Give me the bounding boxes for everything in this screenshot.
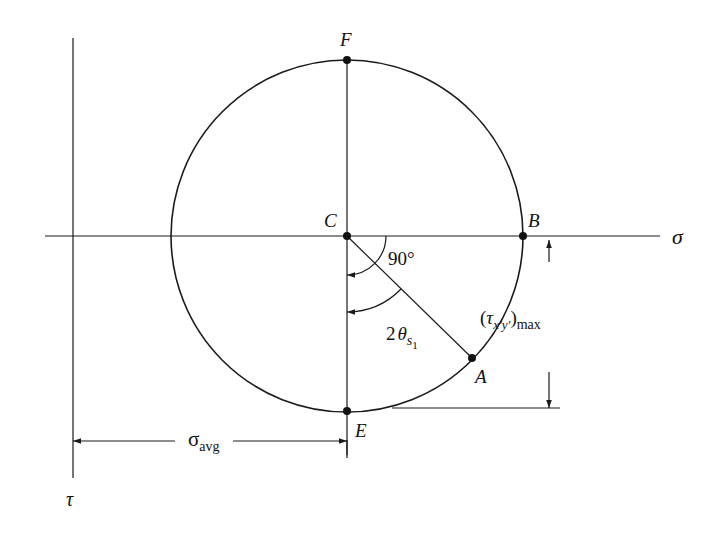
point-C (343, 232, 351, 240)
tau-max-sub: x′y′ (492, 317, 510, 332)
theta-symbol: θ (398, 323, 407, 344)
label-F: F (339, 29, 352, 50)
tau-axis-label: τ (66, 488, 74, 510)
sigma-avg-symbol: σ (188, 427, 199, 451)
label-E: E (354, 420, 367, 441)
label-C: C (324, 210, 337, 231)
tau-max-suffix: max (517, 317, 541, 332)
label-A: A (473, 366, 487, 387)
tau-max-label: (τx′y′)max (480, 307, 541, 332)
point-A (468, 354, 476, 362)
sigma-avg-sub: avg (199, 439, 219, 454)
theta-sub-1: 1 (412, 339, 418, 351)
label-B: B (528, 210, 540, 231)
sigma-axis-label: σ (672, 224, 684, 249)
sigma-avg-label: σavg (188, 427, 220, 454)
mohr-circle-diagram: F C B A E σ τ 90° 2θs1 (τx′y′)max σavg (0, 0, 721, 552)
point-B (519, 232, 527, 240)
angle-arc-2theta (347, 289, 401, 312)
two-theta-prefix: 2 (386, 323, 396, 344)
angle-2theta-label: 2θs1 (386, 323, 418, 351)
angle-90-label: 90° (388, 248, 415, 269)
point-E (343, 407, 351, 415)
point-F (343, 56, 351, 64)
